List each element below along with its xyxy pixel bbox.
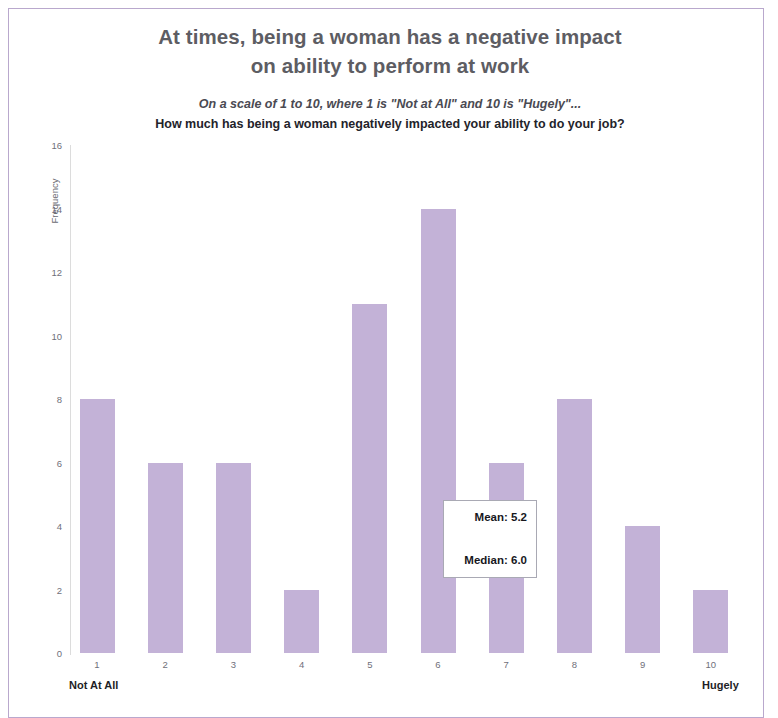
bar-6 — [421, 209, 456, 654]
chart-title-line-1: At times, being a woman has a negative i… — [60, 22, 720, 51]
plot-area: Frequency 0246810121416 12345678910 Not … — [70, 145, 746, 653]
bar-5 — [352, 304, 387, 653]
y-tick-2: 2 — [36, 584, 62, 595]
stats-annotation-box: Mean: 5.2 Median: 6.0 — [443, 500, 537, 578]
bar-9 — [625, 526, 660, 653]
chart-subtitle-scale-note: On a scale of 1 to 10, where 1 is "Not a… — [60, 97, 720, 111]
y-tick-14: 14 — [36, 203, 62, 214]
y-axis-title: Frequency — [49, 156, 60, 246]
x-axis-anchor-high: Hugely — [619, 679, 739, 691]
chart-title-line-2: on ability to perform at work — [60, 51, 720, 80]
bar-10 — [693, 590, 728, 654]
x-tick-2: 2 — [140, 659, 190, 670]
mean-value: Mean: 5.2 — [444, 511, 527, 523]
x-axis-anchor-low: Not At All — [69, 679, 189, 691]
x-tick-7: 7 — [481, 659, 531, 670]
x-tick-5: 5 — [345, 659, 395, 670]
x-tick-8: 8 — [549, 659, 599, 670]
y-tick-6: 6 — [36, 457, 62, 468]
y-tick-8: 8 — [36, 394, 62, 405]
y-tick-0: 0 — [36, 648, 62, 659]
y-tick-12: 12 — [36, 267, 62, 278]
x-tick-10: 10 — [686, 659, 736, 670]
x-tick-9: 9 — [618, 659, 668, 670]
page-title: At times, being a woman has a negative i… — [60, 22, 720, 80]
x-tick-3: 3 — [208, 659, 258, 670]
chart-subtitle-question: How much has being a woman negatively im… — [60, 117, 720, 131]
x-tick-6: 6 — [413, 659, 463, 670]
bar-3 — [216, 463, 251, 654]
y-tick-4: 4 — [36, 521, 62, 532]
x-tick-1: 1 — [72, 659, 122, 670]
median-value: Median: 6.0 — [444, 554, 527, 566]
y-tick-16: 16 — [36, 140, 62, 151]
bar-4 — [284, 590, 319, 654]
x-tick-4: 4 — [277, 659, 327, 670]
bar-8 — [557, 399, 592, 653]
bar-1 — [80, 399, 115, 653]
bar-2 — [148, 463, 183, 654]
y-tick-10: 10 — [36, 330, 62, 341]
